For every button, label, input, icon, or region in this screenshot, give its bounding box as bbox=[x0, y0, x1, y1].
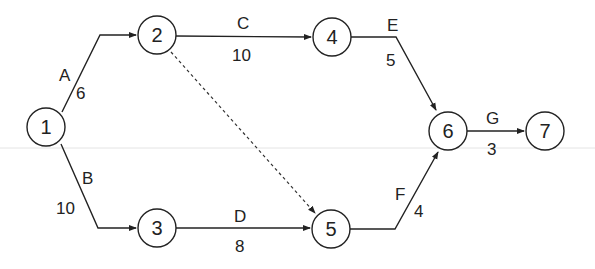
label-c-name: C bbox=[237, 14, 249, 33]
label-g-name: G bbox=[486, 109, 499, 128]
label-d-duration: 8 bbox=[235, 237, 244, 256]
node-1-label: 1 bbox=[40, 116, 51, 138]
node-4: 4 bbox=[313, 18, 351, 56]
label-g-duration: 3 bbox=[487, 140, 496, 159]
node-4-label: 4 bbox=[326, 26, 337, 48]
node-7-label: 7 bbox=[539, 120, 550, 142]
node-5: 5 bbox=[312, 210, 350, 248]
label-c-duration: 10 bbox=[232, 46, 251, 65]
label-e-name: E bbox=[387, 16, 398, 35]
label-b-name: B bbox=[82, 169, 93, 188]
network-diagram: A 6 B 10 C 10 D 8 E 5 F 4 G 3 1 2 3 4 5 … bbox=[0, 0, 595, 269]
label-b-duration: 10 bbox=[56, 199, 75, 218]
node-1: 1 bbox=[27, 108, 65, 146]
node-3-label: 3 bbox=[151, 217, 162, 239]
dummy-edge-2-5 bbox=[171, 52, 315, 213]
node-6: 6 bbox=[429, 112, 467, 150]
label-f-name: F bbox=[395, 185, 405, 204]
label-a-duration: 6 bbox=[76, 84, 85, 103]
label-f-duration: 4 bbox=[414, 202, 423, 221]
node-6-label: 6 bbox=[442, 120, 453, 142]
edge-e bbox=[351, 37, 436, 110]
label-e-duration: 5 bbox=[386, 51, 395, 70]
label-a-name: A bbox=[59, 66, 71, 85]
label-d-name: D bbox=[234, 207, 246, 226]
edge-f bbox=[350, 152, 438, 229]
node-2-label: 2 bbox=[151, 24, 162, 46]
node-2: 2 bbox=[138, 16, 176, 54]
edge-c bbox=[176, 36, 311, 37]
edge-a bbox=[62, 35, 136, 112]
node-3: 3 bbox=[138, 209, 176, 247]
node-7: 7 bbox=[526, 112, 564, 150]
node-5-label: 5 bbox=[325, 218, 336, 240]
